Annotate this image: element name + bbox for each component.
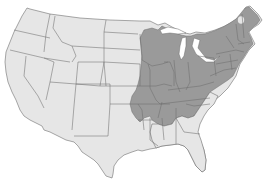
adirondack-spot (238, 16, 244, 24)
map-canvas (0, 0, 280, 187)
us-range-map (0, 0, 280, 187)
